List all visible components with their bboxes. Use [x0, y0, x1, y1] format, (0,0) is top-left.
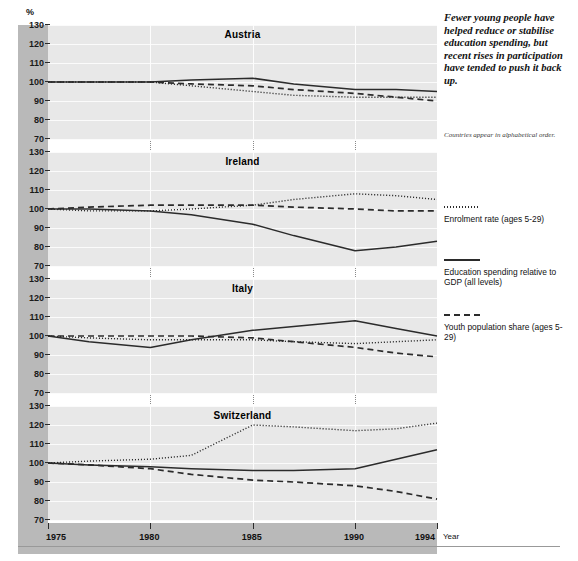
series-line-dashed [48, 463, 437, 499]
y-tick-label: 80 [14, 116, 44, 125]
y-tick-label: 110 [14, 313, 44, 322]
x-tick-mark [253, 523, 254, 529]
y-tick-label: 90 [14, 351, 44, 360]
x-tick-label: 1975 [46, 532, 66, 542]
chart-figure: % AustriaIrelandItalySwitzerland 1975198… [0, 0, 578, 561]
y-tick-label: 80 [14, 497, 44, 506]
y-tick-mark [45, 265, 50, 266]
y-tick-mark [45, 119, 50, 120]
legend-label: Enrolment rate (ages 5-29) [444, 214, 570, 224]
gridline-horizontal [48, 266, 437, 267]
series-line-solid [48, 209, 437, 251]
bottom-divider [18, 546, 560, 547]
panel-separator-tick [253, 395, 254, 405]
y-tick-mark [45, 138, 50, 139]
y-tick-label: 80 [14, 243, 44, 252]
y-tick-label: 110 [14, 440, 44, 449]
y-tick-label: 90 [14, 478, 44, 487]
y-tick-mark [45, 500, 50, 501]
y-tick-label: 90 [14, 224, 44, 233]
y-tick-mark [45, 297, 50, 298]
y-tick-mark [45, 424, 50, 425]
legend-label: Education spending relative to GDP (all … [444, 267, 570, 288]
y-tick-mark [45, 170, 50, 171]
y-tick-mark [45, 443, 50, 444]
y-tick-mark [45, 462, 50, 463]
series-line-dashed [48, 82, 437, 101]
y-tick-label: 120 [14, 167, 44, 176]
y-tick-mark [45, 62, 50, 63]
y-tick-label: 80 [14, 370, 44, 379]
y-tick-label: 130 [14, 402, 44, 411]
y-tick-mark [45, 43, 50, 44]
x-tick-label: 1994 [415, 532, 435, 542]
legend-swatch-dotted [444, 206, 480, 208]
y-tick-label: 130 [14, 21, 44, 30]
series-line-solid [48, 321, 437, 348]
y-tick-mark [45, 24, 50, 25]
panel-series-canvas [48, 152, 437, 266]
chart-panel-austria: Austria [48, 25, 437, 139]
y-tick-mark [45, 405, 50, 406]
chart-panel-switzerland: Switzerland [48, 406, 437, 520]
y-tick-label: 70 [14, 516, 44, 525]
y-tick-mark [45, 151, 50, 152]
y-tick-label: 70 [14, 262, 44, 271]
chart-blurb: Fewer young people have helped reduce or… [444, 12, 570, 88]
x-tick-mark [48, 523, 49, 529]
y-tick-label: 120 [14, 40, 44, 49]
y-axis-unit-label: % [26, 7, 34, 17]
chart-panel-italy: Italy [48, 279, 437, 393]
y-tick-mark [45, 81, 50, 82]
panel-separator-tick [150, 141, 151, 151]
y-tick-mark [45, 392, 50, 393]
legend-label: Youth population share (ages 5-29) [444, 322, 570, 343]
y-tick-label: 70 [14, 135, 44, 144]
gridline-horizontal [48, 393, 437, 394]
panel-separator-tick [253, 141, 254, 151]
y-tick-mark [45, 208, 50, 209]
legend-swatch-dashed [444, 314, 480, 316]
y-tick-mark [45, 373, 50, 374]
y-tick-label: 100 [14, 332, 44, 341]
y-tick-label: 110 [14, 186, 44, 195]
x-axis-band [18, 523, 437, 554]
gridline-horizontal [48, 520, 437, 521]
y-tick-label: 130 [14, 275, 44, 284]
legend-swatch-solid [444, 259, 480, 261]
panel-separator-tick [355, 395, 356, 405]
panel-separator-tick [253, 268, 254, 278]
y-tick-label: 120 [14, 421, 44, 430]
x-axis-title: Year [443, 532, 459, 541]
series-line-dotted [48, 194, 437, 211]
y-tick-mark [45, 278, 50, 279]
y-tick-mark [45, 246, 50, 247]
y-tick-label: 130 [14, 148, 44, 157]
x-tick-mark [355, 523, 356, 529]
x-tick-label: 1990 [344, 532, 364, 542]
y-tick-mark [45, 519, 50, 520]
series-line-dashed [48, 336, 437, 357]
chart-panel-ireland: Ireland [48, 152, 437, 266]
panel-series-canvas [48, 406, 437, 520]
x-tick-label: 1980 [139, 532, 159, 542]
y-tick-label: 120 [14, 294, 44, 303]
y-tick-mark [45, 189, 50, 190]
x-tick-label: 1985 [242, 532, 262, 542]
y-tick-label: 110 [14, 59, 44, 68]
panel-separator-tick [355, 141, 356, 151]
y-tick-label: 100 [14, 459, 44, 468]
series-line-solid [48, 450, 437, 471]
y-tick-mark [45, 354, 50, 355]
x-tick-mark [150, 523, 151, 529]
panel-separator-tick [150, 268, 151, 278]
x-tick-mark [437, 523, 438, 529]
series-line-dotted [48, 423, 437, 463]
y-tick-mark [45, 335, 50, 336]
chart-subnote: Countries appear in alphabetical order. [444, 131, 564, 140]
y-tick-label: 70 [14, 389, 44, 398]
y-tick-mark [45, 481, 50, 482]
panel-series-canvas [48, 25, 437, 139]
y-tick-label: 100 [14, 205, 44, 214]
panel-series-canvas [48, 279, 437, 393]
